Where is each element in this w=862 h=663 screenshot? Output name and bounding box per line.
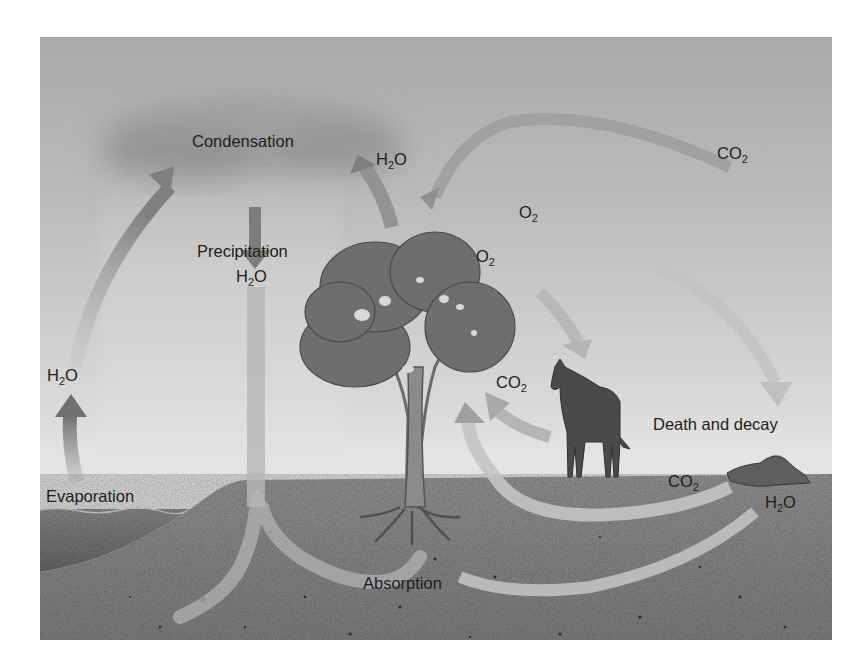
label-absorption: Absorption [363,575,442,592]
co2-horse-to-tree-arrow [485,392,550,437]
label-co2-decay-sub: 2 [693,481,699,493]
label-h2o-decay-main: H [765,493,777,511]
label-h2o-decay: H2O [765,494,796,511]
label-co2-horse: CO2 [496,374,527,391]
label-co2-atmosphere-sub: 2 [742,153,748,165]
label-precip-h2o: H2O [236,268,267,285]
evaporation-arrow [55,394,87,482]
label-co2-decay: CO2 [668,473,699,490]
label-condensation: Condensation [192,133,294,150]
cycle-diagram-panel: Condensation H2O CO2 O2 O2 Precipitation… [40,37,832,640]
label-co2-atmosphere-main: CO [717,144,742,162]
label-precipitation: Precipitation [197,243,288,260]
label-o2-tree: O2 [476,248,495,265]
co2-atmosphere-arrow [420,119,730,210]
label-co2-horse-sub: 2 [521,382,527,394]
label-co2-atmosphere: CO2 [717,145,748,162]
label-co2-horse-main: CO [496,373,521,391]
label-h2o-evaporation-tail: O [65,366,78,384]
label-death-and-decay: Death and decay [653,416,778,433]
label-o2-upper-main: O [519,203,532,221]
label-precip-h2o-tail: O [254,267,267,285]
horse [551,359,630,477]
label-h2o-transpiration: H2O [376,151,407,168]
decaying-carcass [727,456,810,487]
o2-to-decay-arrow [660,267,792,407]
label-precip-h2o-main: H [236,267,248,285]
label-co2-decay-main: CO [668,472,693,490]
label-h2o-transpiration-main: H [376,150,388,168]
cycle-diagram-scene [40,37,832,640]
label-evaporation: Evaporation [46,488,134,505]
label-h2o-transpiration-tail: O [394,150,407,168]
label-o2-upper-sub: 2 [532,212,538,224]
label-o2-tree-sub: 2 [489,256,495,268]
o2-to-horse-arrow [540,292,592,359]
label-o2-tree-main: O [476,247,489,265]
label-h2o-evaporation: H2O [47,367,78,384]
label-h2o-evaporation-main: H [47,366,59,384]
label-o2-upper: O2 [519,204,538,221]
label-h2o-decay-tail: O [783,493,796,511]
precipitation-stream [247,287,265,507]
